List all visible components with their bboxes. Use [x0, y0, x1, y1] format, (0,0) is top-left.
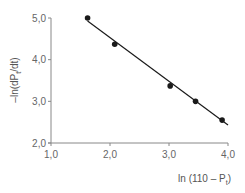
y-axis-label: –ln(dPt/dt) — [9, 57, 22, 102]
y-tick-label: 2,0 — [32, 138, 46, 149]
y-tick-label: 5,0 — [32, 13, 46, 24]
data-point — [219, 117, 225, 123]
data-point — [167, 83, 173, 89]
x-tick-label: 2,0 — [103, 149, 117, 160]
fit-line — [88, 21, 228, 125]
y-tick-label: 4,0 — [32, 54, 46, 65]
y-tick-label: 3,0 — [32, 96, 46, 107]
axes: 2,03,04,05,01,02,03,04,0 — [32, 13, 235, 161]
x-axis-label: ln (110 – Pt) — [178, 173, 231, 186]
chart: 2,03,04,05,01,02,03,04,0 –ln(dPt/dt) ln … — [0, 0, 245, 193]
data-point — [85, 15, 91, 21]
x-tick-label: 1,0 — [44, 149, 58, 160]
plot-area — [85, 15, 228, 125]
x-tick-label: 3,0 — [162, 149, 176, 160]
x-tick-label: 4,0 — [221, 149, 235, 160]
data-point — [112, 41, 118, 47]
data-point — [193, 99, 199, 105]
